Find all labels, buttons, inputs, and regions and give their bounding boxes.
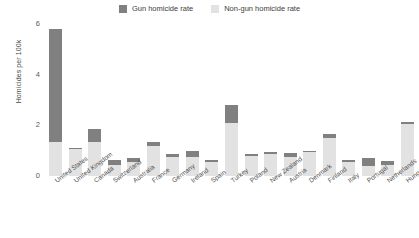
bar-segment-gun <box>362 158 375 166</box>
x-label-netherlands: Netherlands <box>386 179 390 184</box>
bar-segment-non-gun <box>225 123 238 176</box>
bar-segment-non-gun <box>49 142 62 176</box>
x-label-spain: Spain <box>210 179 214 184</box>
y-tick-6: 6 <box>24 20 40 28</box>
bar-segment-gun <box>88 129 101 142</box>
x-label-portugal: Portugal <box>366 179 370 184</box>
x-label-turkey: Turkey <box>230 179 234 184</box>
legend-entry-non-gun: Non-gun homicide rate <box>211 5 300 13</box>
y-tick-2: 2 <box>24 122 40 130</box>
x-label-italy: Italy <box>347 179 351 184</box>
y-axis-title: Homicides per 100k <box>15 17 22 127</box>
bar-segment-gun <box>49 29 62 142</box>
chart-legend: Gun homicide rate Non-gun homicide rate <box>0 5 419 13</box>
bar-segment-gun <box>225 105 238 123</box>
x-label-finland: Finland <box>327 179 331 184</box>
bar-turkey[interactable] <box>225 105 238 176</box>
x-label-denmark: Denmark <box>308 179 312 184</box>
x-label-ireland: Ireland <box>190 179 194 184</box>
x-label-germany: Germany <box>171 179 175 184</box>
x-label-austria: Austria <box>288 179 292 184</box>
x-label-poland: Poland <box>249 179 253 184</box>
x-label-united-kingdom: United Kingdom <box>73 179 77 184</box>
legend-swatch-gun <box>119 5 127 13</box>
x-label-switzerland: Switzerland <box>112 179 116 184</box>
plot-area <box>46 24 417 176</box>
x-label-united-states: United States <box>54 179 58 184</box>
legend-label-gun: Gun homicide rate <box>132 5 193 13</box>
gun-homicide-chart: Gun homicide rate Non-gun homicide rate … <box>0 0 419 238</box>
y-tick-4: 4 <box>24 71 40 79</box>
x-label-canada: Canada <box>93 179 97 184</box>
y-tick-0: 0 <box>24 172 40 180</box>
legend-label-non-gun: Non-gun homicide rate <box>224 5 300 13</box>
x-label-france: France <box>151 179 155 184</box>
x-label-new-zealand: New Zealand <box>269 179 273 184</box>
x-label-australia: Australia <box>132 179 136 184</box>
legend-swatch-non-gun <box>211 5 219 13</box>
bar-united-states[interactable] <box>49 29 62 176</box>
x-label-hungary: Hungary <box>405 179 409 184</box>
legend-entry-gun: Gun homicide rate <box>119 5 193 13</box>
